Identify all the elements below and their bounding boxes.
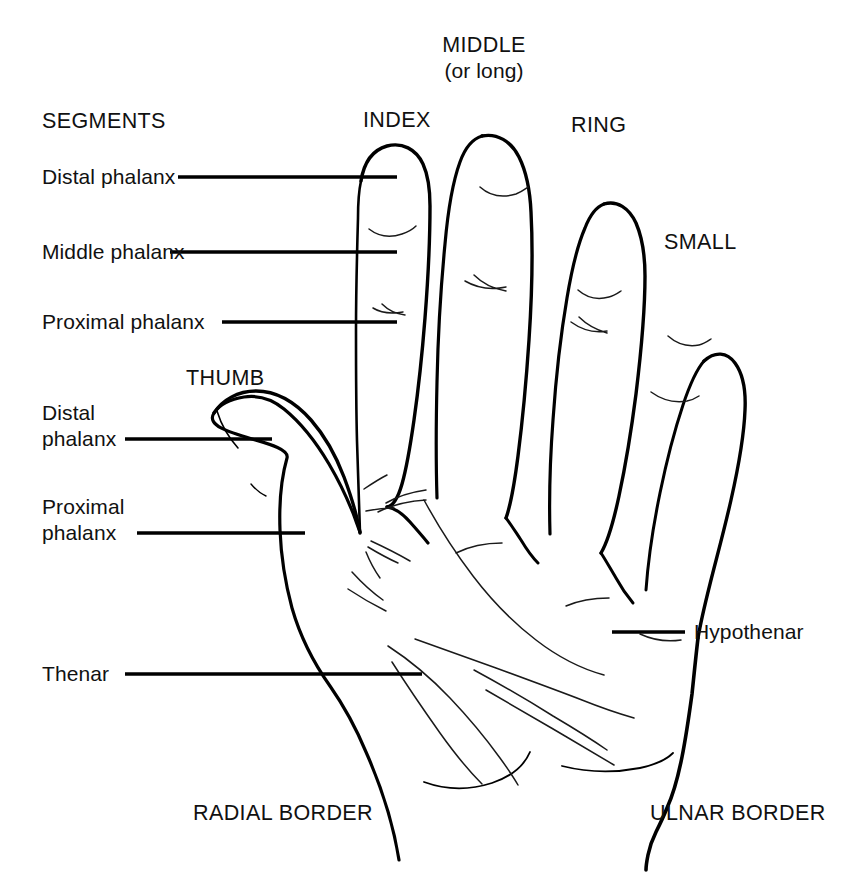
- first-web-crease-e: [371, 541, 410, 561]
- mid-palm-crease: [474, 670, 607, 750]
- middle-ring-web: [506, 518, 538, 563]
- middle-pip-crease: [465, 275, 506, 291]
- label-middle-finger-alt: (or long): [423, 58, 545, 84]
- proximal-palmar-crease: [415, 639, 634, 718]
- index-mp-crease: [378, 500, 426, 512]
- first-web-crease-a: [364, 475, 387, 489]
- label-ring-finger: RING: [571, 112, 626, 138]
- small-mp-crease: [640, 634, 681, 641]
- label-middle-finger: MIDDLE: [423, 32, 545, 58]
- label-small-finger: SMALL: [664, 229, 737, 255]
- label-thenar: Thenar: [42, 661, 109, 687]
- small-finger-tip-and-ulnar-edge: [698, 354, 745, 638]
- ring-finger-tip-and-ulnar-edge: [601, 203, 645, 553]
- distal-palmar-crease: [424, 500, 604, 675]
- thumb-ip-crease: [251, 484, 266, 496]
- index-pip-crease: [373, 304, 405, 315]
- label-radial-border: RADIAL BORDER: [193, 800, 373, 826]
- small-pip-crease: [651, 392, 699, 402]
- label-index-middle-phalanx: Middle phalanx: [42, 239, 185, 265]
- ring-dip-crease: [578, 290, 621, 298]
- index-finger-radial-edge: [356, 181, 361, 533]
- index-finger-tip-and-ulnar-edge: [361, 145, 430, 507]
- hand-anatomy-diagram: SEGMENTS Distal phalanx Middle phalanx P…: [0, 0, 857, 884]
- label-thumb-proximal-phalanx: Proximal phalanx: [42, 494, 124, 546]
- first-web-crease-d: [366, 552, 380, 578]
- index-middle-web: [387, 507, 428, 543]
- mid-palm-crease-2: [486, 690, 614, 765]
- label-thumb-distal-phalanx: Distal phalanx: [42, 400, 116, 452]
- wrist-base-curve: [424, 752, 530, 788]
- label-ulnar-border: ULNAR BORDER: [650, 800, 826, 826]
- thenar-fan-crease-b: [348, 589, 386, 611]
- leader-lines: [125, 177, 685, 674]
- label-index-finger: INDEX: [363, 107, 431, 133]
- thenar-crease: [392, 662, 482, 784]
- middle-mp-crease: [456, 543, 502, 553]
- label-index-proximal-phalanx: Proximal phalanx: [42, 309, 205, 335]
- label-thumb: THUMB: [186, 365, 264, 391]
- hand-outline-radial-thumb: [212, 397, 399, 861]
- label-hypothenar: Hypothenar: [694, 619, 804, 645]
- label-index-distal-phalanx: Distal phalanx: [42, 164, 175, 190]
- hypothenar-base-crease: [562, 753, 673, 771]
- life-line-crease: [388, 646, 518, 785]
- small-dip-crease: [668, 336, 711, 346]
- ring-mp-crease: [566, 598, 609, 606]
- first-web-crease-c: [368, 547, 398, 563]
- ring-finger-radial-edge: [550, 204, 604, 534]
- middle-finger-radial-edge: [436, 136, 482, 498]
- ring-pip-crease: [571, 317, 607, 333]
- middle-dip-crease: [480, 187, 528, 196]
- index-dip-crease: [369, 226, 416, 236]
- ring-small-web: [601, 553, 633, 603]
- segments-heading: SEGMENTS: [42, 108, 166, 134]
